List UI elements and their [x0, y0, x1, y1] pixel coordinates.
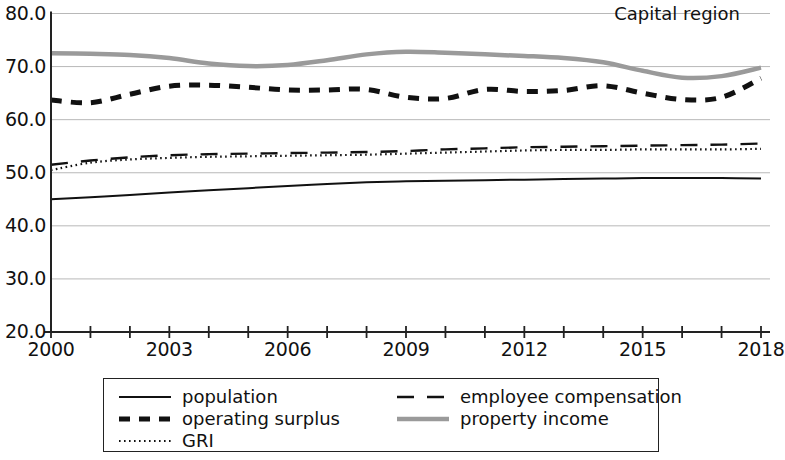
dotted-line-sample: [118, 431, 172, 451]
y-tick-label: 70.0: [2, 57, 46, 76]
legend-entry[interactable]: operating surplus: [118, 407, 340, 431]
legend-label: employee compensation: [460, 387, 682, 407]
x-tick-label: 2012: [501, 338, 548, 360]
y-tick-label: 60.0: [2, 110, 46, 129]
series-line-population: [51, 178, 761, 199]
series-line-property-income: [51, 52, 761, 78]
x-tick-label: 2000: [27, 338, 74, 360]
y-tick-label: 80.0: [2, 4, 46, 23]
series-line-GRI: [51, 149, 761, 170]
x-axis-tick-labels: 2000200320062009201220152018: [0, 338, 782, 368]
thick-gray-line-sample: [396, 409, 450, 429]
series-layer: [51, 52, 761, 200]
x-tick-label: 2003: [146, 338, 193, 360]
y-tick-label: 30.0: [2, 269, 46, 288]
y-axis-tick-labels: 20.030.040.050.060.070.080.0: [0, 0, 46, 345]
chart-title: Capital region: [614, 3, 740, 25]
plot-svg: [0, 0, 782, 345]
legend-label: property income: [460, 409, 609, 429]
legend-entry[interactable]: population: [118, 385, 278, 409]
legend-entry[interactable]: employee compensation: [396, 385, 682, 409]
legend-label: GRI: [182, 431, 214, 451]
x-tick-label: 2009: [382, 338, 429, 360]
chart-legend: populationoperating surplusGRIemployee c…: [103, 378, 659, 452]
thick-dashed-line-sample: [118, 409, 172, 429]
legend-label: operating surplus: [182, 409, 340, 429]
legend-entry[interactable]: property income: [396, 407, 609, 431]
y-tick-label: 40.0: [2, 216, 46, 235]
legend-entry[interactable]: GRI: [118, 429, 214, 453]
plot-area: [0, 0, 782, 345]
long-dashed-line-sample: [396, 387, 450, 407]
legend-grid: populationoperating surplusGRIemployee c…: [104, 379, 658, 451]
gridlines: [51, 14, 770, 333]
series-line-operating-surplus: [51, 78, 761, 103]
legend-label: population: [182, 387, 278, 407]
x-tick-label: 2018: [737, 338, 784, 360]
solid-line-sample: [118, 387, 172, 407]
x-tick-label: 2006: [264, 338, 311, 360]
y-tick-label: 50.0: [2, 163, 46, 182]
x-tick-label: 2015: [619, 338, 666, 360]
axes-layer: [44, 12, 770, 333]
